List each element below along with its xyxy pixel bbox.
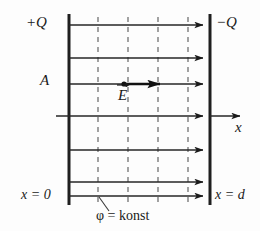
label-positive-charge: +Q xyxy=(26,15,47,30)
label-x-zero: x = 0 xyxy=(21,188,51,202)
label-equipotential: φ = konst xyxy=(96,209,149,223)
label-negative-charge: −Q xyxy=(216,15,237,30)
capacitor-field-diagram: +Q −Q A x x = 0 x = d φ = konst E xyxy=(0,0,260,231)
field-vector-symbol: E xyxy=(118,87,127,103)
vector-arrow-accent-icon xyxy=(117,81,130,87)
equipotential-lines xyxy=(98,17,188,203)
label-x-d: x = d xyxy=(215,188,245,202)
label-field-vector: E xyxy=(118,88,127,103)
label-x-axis: x xyxy=(235,120,242,135)
label-plate-area: A xyxy=(40,73,49,88)
field-lines xyxy=(69,25,203,196)
